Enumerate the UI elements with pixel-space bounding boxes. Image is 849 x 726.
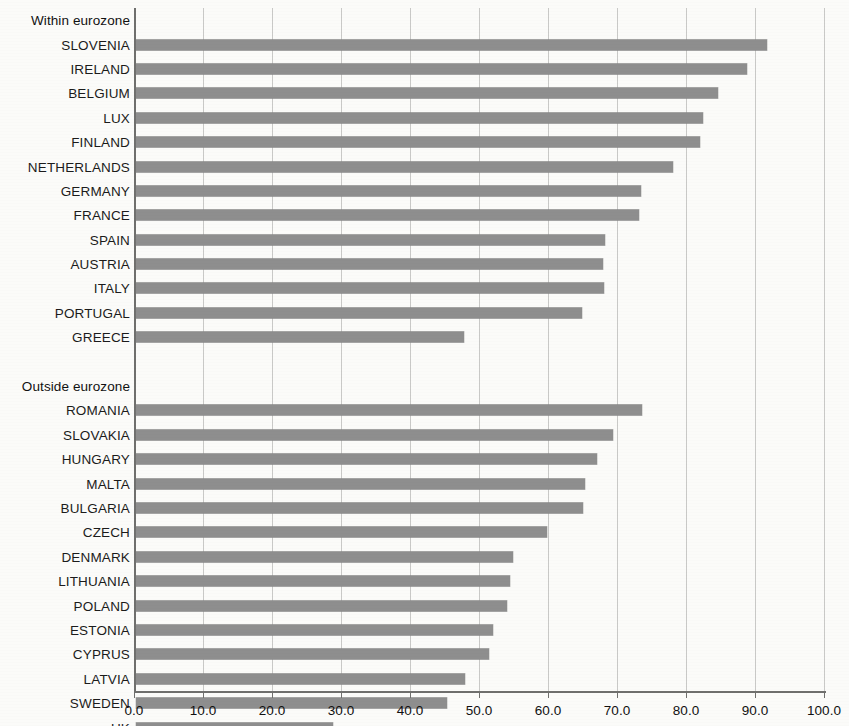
bar: [136, 63, 747, 74]
chart-row: SLOVENIA: [0, 32, 849, 56]
x-tick: [272, 691, 273, 698]
chart-row: SPAIN: [0, 228, 849, 252]
bar: [136, 600, 507, 611]
chart-row: ESTONIA: [0, 618, 849, 642]
bar-track: [136, 398, 826, 422]
x-tick-label: 10.0: [190, 703, 216, 718]
category-label: BELGIUM: [68, 86, 130, 101]
category-label: FRANCE: [74, 208, 130, 223]
chart-row: PORTUGAL: [0, 301, 849, 325]
chart-row: LUX: [0, 106, 849, 130]
bar-track: [136, 471, 826, 495]
bar-track: [136, 154, 826, 178]
bar: [136, 259, 603, 270]
chart-row: BELGIUM: [0, 81, 849, 105]
x-tick-label: 20.0: [259, 703, 285, 718]
bar: [136, 307, 582, 318]
x-tick: [134, 691, 135, 698]
bar: [136, 210, 639, 221]
chart-row: HUNGARY: [0, 447, 849, 471]
chart-row: SLOVAKIA: [0, 423, 849, 447]
category-label: SWEDEN: [70, 696, 130, 711]
bar-track: [136, 228, 826, 252]
bar-track: [136, 203, 826, 227]
bar-track: [136, 545, 826, 569]
category-label: UK: [111, 720, 130, 726]
chart-row: FINLAND: [0, 130, 849, 154]
chart-row: DENMARK: [0, 545, 849, 569]
chart-row: GERMANY: [0, 179, 849, 203]
bar-track: [136, 32, 826, 56]
bar: [136, 454, 597, 465]
category-label: ITALY: [94, 281, 130, 296]
category-label: ROMANIA: [66, 403, 130, 418]
x-tick: [479, 691, 480, 698]
category-label: HUNGARY: [62, 452, 130, 467]
bar-track: [136, 130, 826, 154]
chart-row: IRELAND: [0, 57, 849, 81]
bar: [136, 503, 583, 514]
category-label: FINLAND: [71, 135, 130, 150]
x-tick-label: 40.0: [397, 703, 423, 718]
chart-row: LITHUANIA: [0, 569, 849, 593]
x-tick: [686, 691, 687, 698]
bar: [136, 649, 489, 660]
category-label: MALTA: [86, 476, 130, 491]
bar: [136, 478, 585, 489]
x-tick-label: 30.0: [328, 703, 354, 718]
bar: [136, 429, 613, 440]
x-tick: [341, 691, 342, 698]
bar-track: [136, 520, 826, 544]
bar: [136, 185, 641, 196]
x-tick: [824, 691, 825, 698]
bar: [136, 673, 465, 684]
spacer-row: [0, 349, 849, 373]
bar-track: [136, 569, 826, 593]
group-heading-label: Outside eurozone: [22, 379, 130, 394]
chart-row: GREECE: [0, 325, 849, 349]
chart-row: CYPRUS: [0, 642, 849, 666]
category-label: PORTUGAL: [55, 305, 130, 320]
category-label: SLOVENIA: [61, 37, 130, 52]
category-label: SPAIN: [90, 232, 130, 247]
x-tick: [410, 691, 411, 698]
bar: [136, 624, 493, 635]
bar: [136, 161, 673, 172]
x-tick-label: 50.0: [466, 703, 492, 718]
bar-track: [136, 276, 826, 300]
chart-row: NETHERLANDS: [0, 154, 849, 178]
category-label: CYPRUS: [73, 647, 130, 662]
chart-row: ROMANIA: [0, 398, 849, 422]
bar-track: [136, 423, 826, 447]
chart-row: CZECH: [0, 520, 849, 544]
bar: [136, 137, 700, 148]
category-label: POLAND: [74, 598, 130, 613]
group-heading-label: Within eurozone: [31, 13, 130, 28]
chart-row: LATVIA: [0, 667, 849, 691]
bar-track: [136, 593, 826, 617]
x-tick-label: 0.0: [125, 703, 144, 718]
bar-track: [136, 325, 826, 349]
bar-track: [136, 106, 826, 130]
bar-track: [136, 447, 826, 471]
bar: [136, 527, 547, 538]
category-label: GREECE: [72, 330, 130, 345]
bar-track: [136, 81, 826, 105]
category-label: LUX: [103, 110, 130, 125]
x-tick-label: 90.0: [742, 703, 768, 718]
bar: [136, 234, 605, 245]
bar-track: [136, 496, 826, 520]
chart-row: POLAND: [0, 593, 849, 617]
category-label: ESTONIA: [70, 622, 130, 637]
bar-track: [136, 179, 826, 203]
x-tick-label: 60.0: [535, 703, 561, 718]
category-label: IRELAND: [70, 61, 130, 76]
chart-row: BULGARIA: [0, 496, 849, 520]
bar: [136, 551, 513, 562]
x-tick: [617, 691, 618, 698]
bar: [136, 576, 510, 587]
category-label: LITHUANIA: [58, 574, 130, 589]
chart-rows: Within eurozoneSLOVENIAIRELANDBELGIUMLUX…: [0, 8, 849, 726]
chart-row: ITALY: [0, 276, 849, 300]
bar-track: [136, 57, 826, 81]
